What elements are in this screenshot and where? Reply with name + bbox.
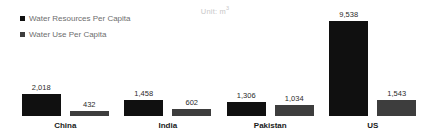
bar-water-use-per-capita[interactable] bbox=[377, 100, 416, 116]
legend-swatch-icon bbox=[20, 32, 25, 37]
bar-water-resources-per-capita[interactable] bbox=[22, 94, 61, 116]
bar-group-us: 9,538 1,543 US bbox=[322, 8, 425, 131]
bar-value-label: 1,034 bbox=[285, 95, 304, 103]
bar-group-india: 1,458 602 India bbox=[117, 8, 220, 131]
bar-value-label: 602 bbox=[185, 99, 198, 107]
legend-swatch-icon bbox=[20, 16, 25, 21]
bar-value-label: 2,018 bbox=[32, 84, 51, 92]
bar-item: 1,306 bbox=[227, 11, 266, 116]
category-label-india: India bbox=[158, 121, 177, 131]
bar-item: 1,543 bbox=[377, 11, 416, 116]
category-label-china: China bbox=[54, 121, 76, 131]
bar-water-resources-per-capita[interactable] bbox=[227, 102, 266, 116]
legend-item-label: Water Use Per Capita bbox=[29, 30, 107, 39]
bar-value-label: 1,458 bbox=[134, 90, 153, 98]
bar-group-bars: 1,458 602 bbox=[124, 11, 211, 116]
bar-group-bars: 1,306 1,034 bbox=[227, 11, 314, 116]
bar-group-pakistan: 1,306 1,034 Pakistan bbox=[219, 8, 322, 131]
legend-item-water-use-per-capita[interactable]: Water Use Per Capita bbox=[20, 28, 131, 41]
bar-value-label: 1,543 bbox=[387, 90, 406, 98]
category-label-pakistan: Pakistan bbox=[254, 121, 287, 131]
bar-item: 9,538 bbox=[329, 11, 368, 116]
bar-water-resources-per-capita[interactable] bbox=[124, 100, 163, 116]
bar-item: 602 bbox=[172, 11, 211, 116]
bar-group-bars: 9,538 1,543 bbox=[329, 11, 416, 116]
bar-item: 1,034 bbox=[275, 11, 314, 116]
bar-water-use-per-capita[interactable] bbox=[275, 105, 314, 116]
legend-item-water-resources-per-capita[interactable]: Water Resources Per Capita bbox=[20, 12, 131, 25]
category-label-us: US bbox=[367, 121, 378, 131]
bar-value-label: 432 bbox=[83, 101, 96, 109]
bar-value-label: 9,538 bbox=[339, 11, 358, 19]
bar-water-use-per-capita[interactable] bbox=[172, 109, 211, 116]
bar-chart: Unit: m3 Water Resources Per Capita Wate… bbox=[0, 0, 430, 131]
bar-water-resources-per-capita[interactable] bbox=[329, 21, 368, 116]
legend-item-label: Water Resources Per Capita bbox=[29, 14, 131, 23]
chart-legend: Water Resources Per Capita Water Use Per… bbox=[20, 12, 131, 44]
bar-value-label: 1,306 bbox=[237, 92, 256, 100]
bar-water-use-per-capita[interactable] bbox=[70, 111, 109, 116]
